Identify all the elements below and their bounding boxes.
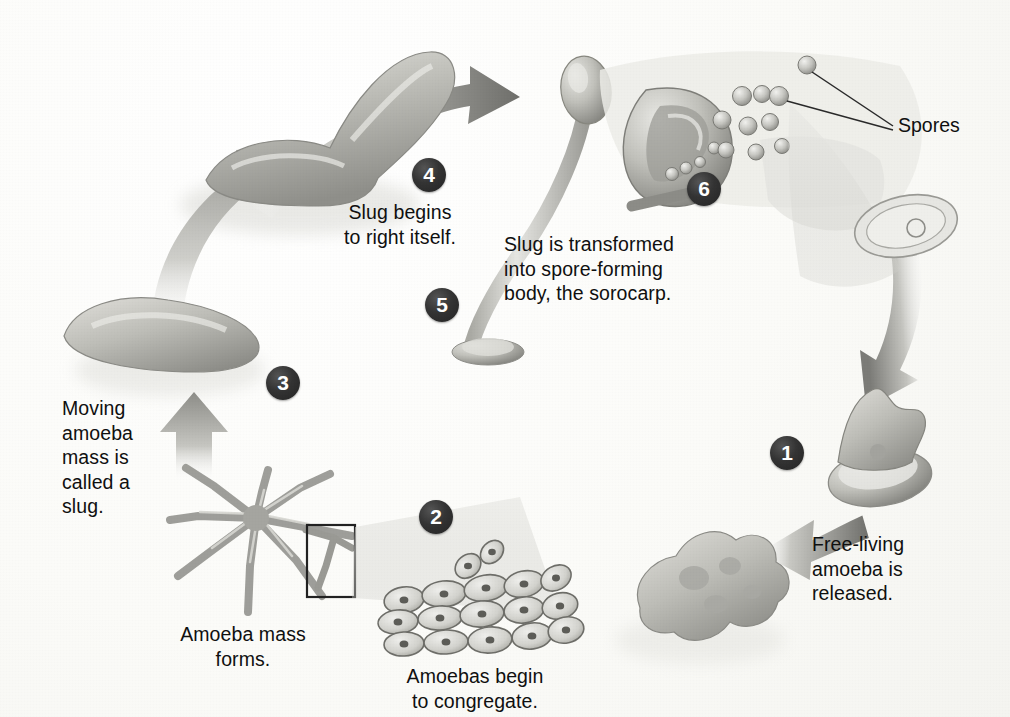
life-cycle-illustration xyxy=(0,0,1010,717)
stage-badge-4: 4 xyxy=(412,158,446,192)
caption-amoebas-congregate: Amoebas begin to congregate. xyxy=(370,664,580,713)
free-living-amoeba xyxy=(638,532,790,641)
caption-slug-rights-itself: Slug begins to right itself. xyxy=(305,200,495,249)
label-spores: Spores xyxy=(898,114,960,137)
stage-badge-6: 6 xyxy=(687,172,721,206)
stage-badge-2: 2 xyxy=(419,500,453,534)
spore-labelled-upper xyxy=(798,56,816,74)
caption-free-living-amoeba: Free-living amoeba is released. xyxy=(812,532,982,606)
stage-badge-1: 1 xyxy=(770,436,804,470)
caption-sorocarp: Slug is transformed into spore-forming b… xyxy=(504,232,734,306)
figure-canvas: Slug begins to right itself. Slug is tra… xyxy=(0,0,1010,717)
stage-badge-3: 3 xyxy=(266,366,300,400)
stage-1-amoeba-emerging xyxy=(825,389,936,513)
spore-labelled-lower xyxy=(770,87,789,106)
stage-badge-5: 5 xyxy=(425,288,459,322)
caption-moving-amoeba-mass: Moving amoeba mass is called a slug. xyxy=(62,396,182,519)
caption-amoeba-mass-forms: Amoeba mass forms. xyxy=(148,622,338,671)
